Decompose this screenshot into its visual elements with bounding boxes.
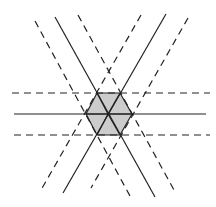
solid-line — [55, 17, 155, 197]
solid-line — [63, 14, 166, 193]
hexagon-diagram — [0, 0, 216, 207]
